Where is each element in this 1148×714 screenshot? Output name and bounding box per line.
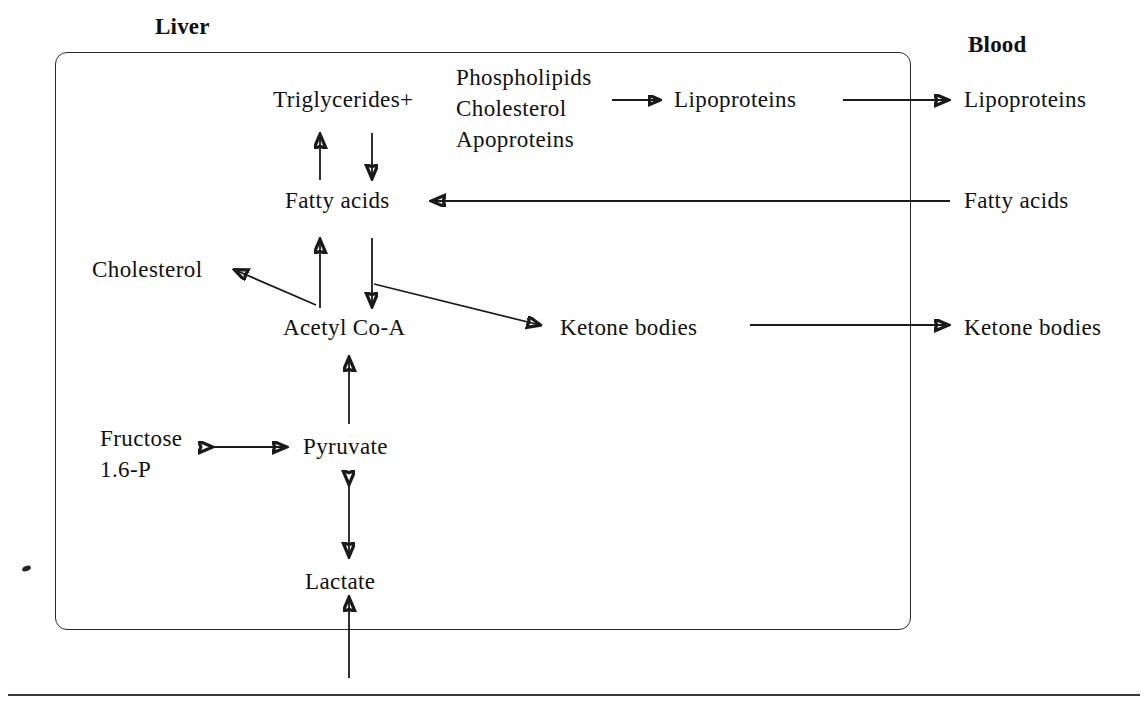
node-fructose-line1: Fructose	[100, 423, 182, 454]
node-phospholipids: Phospholipids	[456, 62, 592, 93]
diagram-canvas: Liver Blood Triglycerides+ Phospholipids…	[0, 0, 1148, 714]
node-ketone-bodies-blood: Ketone bodies	[964, 313, 1101, 343]
node-fatty-acids-liver: Fatty acids	[285, 186, 390, 216]
node-pyruvate: Pyruvate	[303, 432, 388, 462]
node-lactate: Lactate	[305, 567, 375, 597]
liver-compartment-label: Liver	[155, 12, 210, 42]
node-fructose-line2: 1.6-P	[100, 454, 151, 485]
node-cholesterol: Cholesterol	[92, 255, 202, 285]
node-fatty-acids-blood: Fatty acids	[964, 186, 1069, 216]
margin-artifact	[21, 565, 31, 573]
node-triglycerides: Triglycerides+	[273, 85, 413, 115]
blood-compartment-label: Blood	[968, 30, 1027, 60]
node-ketone-bodies-liver: Ketone bodies	[560, 313, 697, 343]
page-bottom-rule	[8, 694, 1140, 696]
node-lipoproteins-liver: Lipoproteins	[674, 85, 796, 115]
node-lipoproteins-blood: Lipoproteins	[964, 85, 1086, 115]
node-cholesterol-precursor: Cholesterol	[456, 93, 566, 124]
node-acetyl-coa: Acetyl Co-A	[283, 313, 406, 343]
node-apoproteins: Apoproteins	[456, 124, 574, 155]
